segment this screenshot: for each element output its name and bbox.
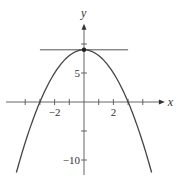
x-tick-label: 2 <box>111 106 117 118</box>
y-tick-label: 5 <box>75 67 81 79</box>
y-tick-label: −10 <box>63 154 81 166</box>
parabola-chart: xy −225−10 <box>0 0 178 190</box>
tick-labels: −225−10 <box>49 67 116 166</box>
axes: xy <box>6 6 174 175</box>
vertex-point <box>82 48 86 52</box>
x-tick-label: −2 <box>49 106 61 118</box>
plot-area: xy −225−10 <box>0 0 178 190</box>
x-axis-arrow-icon <box>159 100 165 105</box>
y-axis-arrow-icon <box>82 24 87 30</box>
y-axis-label: y <box>80 6 87 20</box>
x-axis-label: x <box>167 95 174 109</box>
